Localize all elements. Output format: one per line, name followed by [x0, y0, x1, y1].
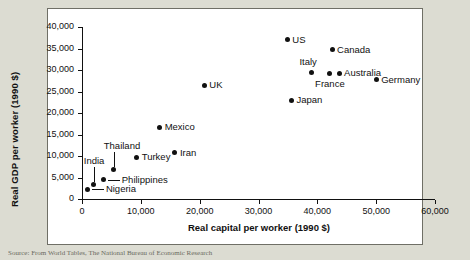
y-tick-label: 5,000 [22, 172, 74, 182]
y-tick-label: 40,000 [22, 21, 74, 31]
x-axis-line [82, 199, 435, 200]
data-point [157, 125, 162, 130]
label-leader-line [114, 152, 115, 167]
x-tick-label: 0 [54, 206, 110, 216]
x-tick-mark [435, 200, 436, 204]
data-point-label: India [84, 155, 105, 166]
y-tick-label: 0 [22, 193, 74, 203]
x-tick-label: 20,000 [172, 206, 228, 216]
data-point-label: Germany [381, 74, 420, 85]
scatter-plot: Real GDP per worker (1990 $) Real capita… [0, 0, 470, 260]
data-point-label: Philippines [122, 174, 168, 185]
x-tick-mark [317, 200, 318, 204]
data-point-label: Italy [299, 56, 316, 67]
data-point-label: Iran [180, 147, 196, 158]
y-tick-label: 35,000 [22, 43, 74, 53]
x-tick-mark [82, 200, 83, 204]
data-point [91, 182, 96, 187]
data-point [202, 83, 207, 88]
data-point-label: Japan [296, 94, 322, 105]
data-point [111, 167, 116, 172]
data-point-label: UK [209, 79, 222, 90]
label-leader-line [92, 189, 104, 190]
x-tick-label: 40,000 [289, 206, 345, 216]
figure-caption: Source: From World Tables, The National … [8, 249, 448, 257]
data-point [85, 187, 90, 192]
x-tick-label: 60,000 [407, 206, 463, 216]
data-point [289, 98, 294, 103]
data-point-label: Mexico [165, 121, 195, 132]
data-point [285, 37, 290, 42]
y-axis-title: Real GDP per worker (1990 $) [9, 72, 20, 207]
x-tick-label: 10,000 [113, 206, 169, 216]
label-leader-line [108, 180, 120, 181]
data-point [330, 47, 335, 52]
label-leader-line [94, 167, 95, 182]
x-tick-mark [376, 200, 377, 204]
data-point [134, 155, 139, 160]
x-tick-mark [141, 200, 142, 204]
data-point-label: Thailand [104, 140, 140, 151]
y-tick-label: 15,000 [22, 129, 74, 139]
y-tick-label: 30,000 [22, 64, 74, 74]
x-axis-title: Real capital per worker (1990 $) [82, 222, 436, 233]
data-point [374, 77, 379, 82]
x-tick-label: 30,000 [231, 206, 287, 216]
x-tick-mark [259, 200, 260, 204]
data-point-label: Australia [344, 67, 381, 78]
data-point [327, 71, 332, 76]
data-point-label: US [292, 34, 305, 45]
y-axis-line [82, 27, 83, 199]
data-point [337, 71, 342, 76]
data-point [172, 150, 177, 155]
data-point-label: Canada [337, 44, 370, 55]
data-point-label: Turkey [142, 151, 171, 162]
x-tick-label: 50,000 [348, 206, 404, 216]
x-tick-mark [200, 200, 201, 204]
y-tick-label: 25,000 [22, 86, 74, 96]
data-point-label: Nigeria [106, 183, 136, 194]
data-point-label: France [315, 78, 345, 89]
data-point [309, 70, 314, 75]
y-tick-label: 10,000 [22, 150, 74, 160]
y-tick-label: 20,000 [22, 107, 74, 117]
data-point [101, 177, 106, 182]
